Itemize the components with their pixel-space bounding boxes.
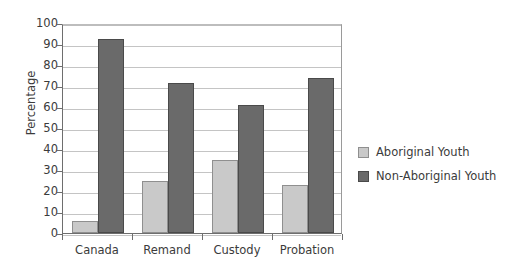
y-axis-tick-label: 30 — [14, 165, 58, 177]
legend-item[interactable]: Aboriginal Youth — [358, 142, 496, 162]
y-axis-tick-label: 10 — [14, 207, 58, 219]
y-axis-tick-label: 0 — [14, 228, 58, 240]
y-axis-tick-label: 90 — [14, 39, 58, 51]
x-axis-tick-mark — [272, 234, 273, 240]
legend-swatch-icon — [358, 147, 369, 158]
legend-swatch-icon — [358, 171, 369, 182]
bar — [98, 39, 124, 233]
bar — [168, 83, 194, 233]
y-axis-title: Percentage — [24, 58, 38, 148]
y-axis-tick-label: 100 — [14, 18, 58, 30]
bar — [142, 181, 168, 234]
y-axis-tick-label: 20 — [14, 186, 58, 198]
bar-group — [133, 25, 203, 233]
bar — [238, 105, 264, 233]
bar-group — [63, 25, 133, 233]
bar — [282, 185, 308, 233]
legend-item[interactable]: Non-Aboriginal Youth — [358, 166, 496, 186]
x-axis-tick-mark — [62, 234, 63, 240]
legend-label: Non-Aboriginal Youth — [376, 169, 496, 183]
bar-chart-figure: 0102030405060708090100 Percentage Canada… — [0, 0, 510, 271]
legend-label: Aboriginal Youth — [376, 145, 469, 159]
x-axis-tick-mark — [202, 234, 203, 240]
bar — [72, 221, 98, 233]
bar — [212, 160, 238, 234]
plot-area — [62, 24, 342, 234]
chart-legend: Aboriginal YouthNon-Aboriginal Youth — [358, 142, 496, 190]
x-axis-tick-label: Probation — [262, 245, 352, 257]
bar — [308, 78, 334, 233]
bar-group — [273, 25, 343, 233]
x-axis-tick-mark — [132, 234, 133, 240]
x-axis-tick-mark — [342, 234, 343, 240]
bar-group — [203, 25, 273, 233]
